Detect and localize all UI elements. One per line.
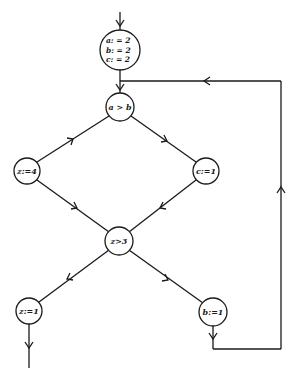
edge-entry-to-init: [116, 12, 124, 30]
init-line-a: a: = 2: [106, 36, 130, 45]
edge-cond2-to-z1: [39, 250, 109, 302]
cond2-label: z>3: [110, 236, 128, 246]
edge-z4-to-cond2: [37, 180, 109, 232]
edge-cond1-to-c1: [131, 116, 196, 162]
node-z4: z:=4: [14, 158, 40, 184]
z1-label: z:=1: [18, 306, 39, 316]
z4-label: z:=4: [16, 166, 37, 176]
arrowhead-icon: [67, 273, 73, 280]
edge-cond2-to-b1: [129, 250, 203, 303]
node-b1: b:=1: [199, 298, 227, 326]
node-z1: z:=1: [16, 298, 42, 324]
init-line-c: c: = 2: [106, 55, 130, 64]
node-init: a: = 2 b: = 2 c: = 2: [100, 30, 140, 70]
flowchart: a: = 2 b: = 2 c: = 2 a > b z:=4 c:=1 z>3…: [0, 0, 298, 373]
c1-label: c:=1: [196, 166, 216, 176]
node-cond2: z>3: [105, 227, 133, 255]
node-c1: c:=1: [193, 158, 219, 184]
edge-z1-to-exit: [25, 324, 33, 368]
edge-cond1-to-z4: [37, 116, 109, 162]
node-cond1: a > b: [106, 93, 134, 121]
edge-c1-to-cond2: [129, 180, 196, 232]
b1-label: b:=1: [203, 307, 224, 317]
cond1-label: a > b: [108, 102, 131, 112]
init-line-b: b: = 2: [106, 46, 131, 55]
